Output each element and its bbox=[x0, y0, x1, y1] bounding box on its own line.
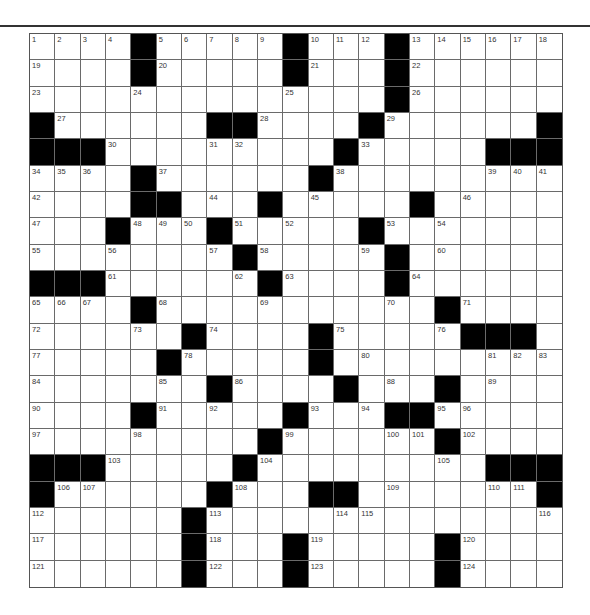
grid-cell[interactable]: 53 bbox=[385, 218, 410, 244]
grid-cell[interactable] bbox=[207, 429, 232, 455]
grid-cell[interactable] bbox=[537, 324, 562, 350]
grid-cell[interactable] bbox=[81, 192, 106, 218]
grid-cell[interactable] bbox=[106, 376, 131, 402]
grid-cell[interactable] bbox=[486, 60, 511, 86]
grid-cell[interactable]: 75 bbox=[334, 324, 359, 350]
grid-cell[interactable] bbox=[461, 376, 486, 402]
grid-cell[interactable]: 8 bbox=[233, 34, 258, 60]
grid-cell[interactable] bbox=[81, 60, 106, 86]
grid-cell[interactable] bbox=[131, 455, 156, 481]
grid-cell[interactable] bbox=[435, 87, 460, 113]
grid-cell[interactable] bbox=[461, 60, 486, 86]
grid-cell[interactable] bbox=[511, 561, 536, 587]
grid-cell[interactable]: 93 bbox=[309, 403, 334, 429]
grid-cell[interactable]: 86 bbox=[233, 376, 258, 402]
grid-cell[interactable] bbox=[359, 482, 384, 508]
grid-cell[interactable] bbox=[486, 297, 511, 323]
grid-cell[interactable]: 71 bbox=[461, 297, 486, 323]
grid-cell[interactable] bbox=[157, 324, 182, 350]
grid-cell[interactable]: 62 bbox=[233, 271, 258, 297]
grid-cell[interactable] bbox=[283, 192, 308, 218]
grid-cell[interactable] bbox=[461, 218, 486, 244]
grid-cell[interactable]: 16 bbox=[486, 34, 511, 60]
grid-cell[interactable] bbox=[359, 271, 384, 297]
grid-cell[interactable] bbox=[435, 350, 460, 376]
grid-cell[interactable] bbox=[359, 324, 384, 350]
grid-cell[interactable] bbox=[435, 113, 460, 139]
grid-cell[interactable] bbox=[359, 297, 384, 323]
grid-cell[interactable] bbox=[182, 139, 207, 165]
grid-cell[interactable]: 38 bbox=[334, 166, 359, 192]
grid-cell[interactable] bbox=[461, 271, 486, 297]
grid-cell[interactable] bbox=[157, 482, 182, 508]
grid-cell[interactable]: 103 bbox=[106, 455, 131, 481]
grid-cell[interactable] bbox=[309, 271, 334, 297]
grid-cell[interactable]: 98 bbox=[131, 429, 156, 455]
grid-cell[interactable] bbox=[511, 508, 536, 534]
grid-cell[interactable] bbox=[334, 60, 359, 86]
grid-cell[interactable]: 15 bbox=[461, 34, 486, 60]
grid-cell[interactable] bbox=[131, 139, 156, 165]
grid-cell[interactable]: 66 bbox=[55, 297, 80, 323]
grid-cell[interactable] bbox=[537, 60, 562, 86]
grid-cell[interactable] bbox=[461, 139, 486, 165]
grid-cell[interactable] bbox=[283, 482, 308, 508]
grid-cell[interactable]: 29 bbox=[385, 113, 410, 139]
grid-cell[interactable] bbox=[233, 324, 258, 350]
grid-cell[interactable]: 9 bbox=[258, 34, 283, 60]
grid-cell[interactable] bbox=[435, 482, 460, 508]
grid-cell[interactable] bbox=[410, 324, 435, 350]
grid-cell[interactable] bbox=[410, 508, 435, 534]
grid-cell[interactable] bbox=[182, 271, 207, 297]
grid-cell[interactable] bbox=[233, 508, 258, 534]
grid-cell[interactable]: 109 bbox=[385, 482, 410, 508]
grid-cell[interactable] bbox=[486, 113, 511, 139]
grid-cell[interactable] bbox=[486, 429, 511, 455]
grid-cell[interactable] bbox=[106, 403, 131, 429]
grid-cell[interactable]: 124 bbox=[461, 561, 486, 587]
grid-cell[interactable] bbox=[81, 87, 106, 113]
grid-cell[interactable]: 85 bbox=[157, 376, 182, 402]
grid-cell[interactable]: 116 bbox=[537, 508, 562, 534]
grid-cell[interactable] bbox=[334, 192, 359, 218]
grid-cell[interactable] bbox=[81, 350, 106, 376]
grid-cell[interactable]: 58 bbox=[258, 245, 283, 271]
grid-cell[interactable] bbox=[511, 245, 536, 271]
grid-cell[interactable] bbox=[207, 297, 232, 323]
grid-cell[interactable] bbox=[258, 87, 283, 113]
grid-cell[interactable] bbox=[486, 218, 511, 244]
grid-cell[interactable]: 108 bbox=[233, 482, 258, 508]
grid-cell[interactable] bbox=[81, 534, 106, 560]
grid-cell[interactable]: 110 bbox=[486, 482, 511, 508]
grid-cell[interactable] bbox=[309, 508, 334, 534]
grid-cell[interactable] bbox=[435, 139, 460, 165]
grid-cell[interactable] bbox=[106, 429, 131, 455]
grid-cell[interactable] bbox=[511, 534, 536, 560]
grid-cell[interactable]: 1 bbox=[30, 34, 55, 60]
grid-cell[interactable] bbox=[233, 166, 258, 192]
grid-cell[interactable]: 42 bbox=[30, 192, 55, 218]
grid-cell[interactable] bbox=[106, 297, 131, 323]
grid-cell[interactable]: 118 bbox=[207, 534, 232, 560]
grid-cell[interactable] bbox=[359, 60, 384, 86]
grid-cell[interactable]: 104 bbox=[258, 455, 283, 481]
grid-cell[interactable] bbox=[537, 87, 562, 113]
grid-cell[interactable]: 56 bbox=[106, 245, 131, 271]
grid-cell[interactable]: 19 bbox=[30, 60, 55, 86]
grid-cell[interactable] bbox=[106, 324, 131, 350]
grid-cell[interactable] bbox=[131, 482, 156, 508]
grid-cell[interactable] bbox=[537, 271, 562, 297]
grid-cell[interactable]: 10 bbox=[309, 34, 334, 60]
grid-cell[interactable] bbox=[334, 534, 359, 560]
grid-cell[interactable] bbox=[131, 534, 156, 560]
grid-cell[interactable]: 50 bbox=[182, 218, 207, 244]
grid-cell[interactable] bbox=[486, 403, 511, 429]
grid-cell[interactable] bbox=[283, 455, 308, 481]
grid-cell[interactable] bbox=[157, 113, 182, 139]
grid-cell[interactable]: 54 bbox=[435, 218, 460, 244]
grid-cell[interactable] bbox=[410, 218, 435, 244]
grid-cell[interactable]: 6 bbox=[182, 34, 207, 60]
grid-cell[interactable] bbox=[537, 534, 562, 560]
grid-cell[interactable] bbox=[334, 218, 359, 244]
grid-cell[interactable] bbox=[461, 482, 486, 508]
